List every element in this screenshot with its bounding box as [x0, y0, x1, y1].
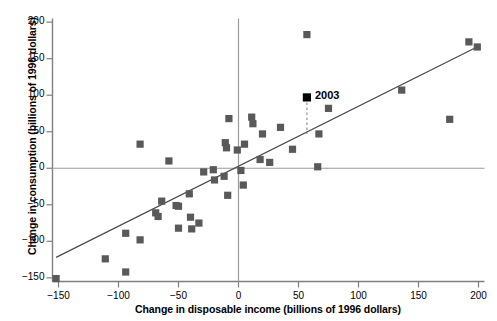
data-point-marker	[303, 31, 310, 38]
data-point-marker	[200, 168, 207, 175]
data-point-marker	[225, 115, 232, 122]
data-point-marker	[186, 190, 193, 197]
data-point-marker	[53, 275, 60, 282]
data-points-group	[53, 31, 481, 282]
data-point-marker	[137, 141, 144, 148]
data-point-marker	[221, 173, 228, 180]
data-point-marker	[315, 130, 322, 137]
data-point-marker	[195, 219, 202, 226]
data-point-marker	[187, 214, 194, 221]
x-tick-label: 50	[279, 290, 319, 301]
data-point-marker	[398, 86, 405, 93]
data-point-marker	[188, 225, 195, 232]
highlight-point-label: 2003	[315, 89, 339, 101]
data-point-marker	[289, 146, 296, 153]
data-point-marker	[240, 181, 247, 188]
data-point-marker	[155, 213, 162, 220]
data-point-marker	[277, 124, 284, 131]
trendline-segment	[56, 46, 478, 257]
data-point-marker	[210, 166, 217, 173]
data-point-marker	[446, 116, 453, 123]
data-point-marker	[474, 43, 481, 50]
data-point-marker	[137, 236, 144, 243]
data-point-marker	[257, 156, 264, 163]
data-point-marker	[122, 230, 129, 237]
plot-canvas	[0, 0, 497, 321]
regression-trendline	[56, 46, 478, 257]
data-point-marker	[259, 130, 266, 137]
x-tick-label: −100	[99, 290, 139, 301]
data-point-marker	[223, 144, 230, 151]
data-point-marker	[122, 268, 129, 275]
data-point-marker	[241, 141, 248, 148]
data-point-marker	[175, 203, 182, 210]
x-tick-label: 150	[399, 290, 439, 301]
data-point-marker	[234, 146, 241, 153]
data-point-marker	[224, 192, 231, 199]
zero-reference-lines	[53, 19, 485, 282]
x-tick-label: 0	[219, 290, 259, 301]
data-point-marker	[465, 38, 472, 45]
x-axis-title: Change in disposable income (billions of…	[52, 303, 484, 315]
y-axis-title: Change in consumption (billions of 1996 …	[26, 1, 38, 271]
data-point-marker	[158, 198, 165, 205]
data-point-marker	[175, 225, 182, 232]
x-tick-label: 200	[459, 290, 497, 301]
scatter-chart-figure: −150−100−50050100150200 −150−100−5005010…	[0, 0, 497, 321]
x-tick-label: −150	[39, 290, 79, 301]
data-point-marker	[248, 114, 255, 121]
data-point-marker	[325, 105, 332, 112]
data-point-marker	[165, 157, 172, 164]
highlight-data-point	[303, 93, 311, 101]
y-tick-label: −150	[11, 271, 45, 282]
data-point-marker	[249, 120, 256, 127]
highlight-point-marker	[303, 93, 311, 101]
data-point-marker	[102, 255, 109, 262]
data-point-marker	[237, 167, 244, 174]
x-tick-label: 100	[339, 290, 379, 301]
data-point-marker	[266, 159, 273, 166]
data-point-marker	[314, 163, 321, 170]
data-point-marker	[211, 176, 218, 183]
x-tick-label: −50	[159, 290, 199, 301]
